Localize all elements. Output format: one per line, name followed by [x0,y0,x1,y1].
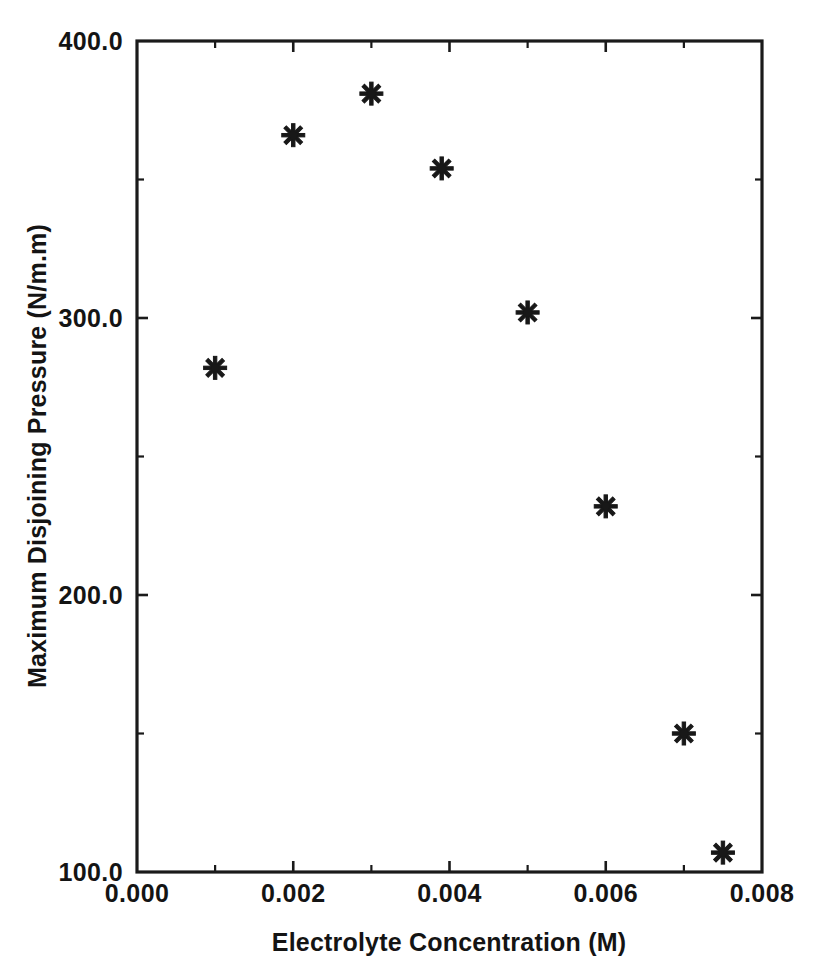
data-point-marker [360,82,383,105]
x-axis-title: Electrolyte Concentration (M) [272,928,626,956]
y-tick-label: 300.0 [58,304,123,332]
x-tick-label: 0.008 [730,879,795,907]
y-tick-label: 100.0 [58,858,123,886]
x-tick-label: 0.004 [417,879,482,907]
data-point-marker [204,356,227,379]
data-point-marker [430,157,453,180]
y-tick-label: 400.0 [58,27,123,55]
chart-svg: 0.0000.0020.0040.0060.008 100.0200.0300.… [0,0,816,968]
chart-background [0,0,816,968]
data-point-marker [516,301,539,324]
x-tick-label: 0.006 [573,879,638,907]
x-tick-label: 0.002 [261,879,326,907]
data-point-marker [594,495,617,518]
data-point-marker [711,841,734,864]
data-point-marker [282,124,305,147]
scatter-chart-figure: 0.0000.0020.0040.0060.008 100.0200.0300.… [0,0,816,968]
y-tick-label: 200.0 [58,581,123,609]
y-axis-title: Maximum Disjoining Pressure (N/m.m) [23,224,51,688]
data-point-marker [672,722,695,745]
